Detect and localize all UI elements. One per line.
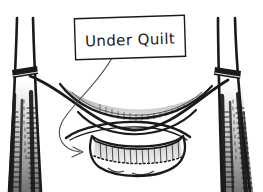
callout-label[interactable]: Under Quilt	[74, 15, 185, 59]
illustration-canvas: Under Quilt	[0, 0, 263, 192]
under-quilt-diagram: Under Quilt	[0, 0, 263, 192]
callout-label-text: Under Quilt	[85, 30, 176, 51]
